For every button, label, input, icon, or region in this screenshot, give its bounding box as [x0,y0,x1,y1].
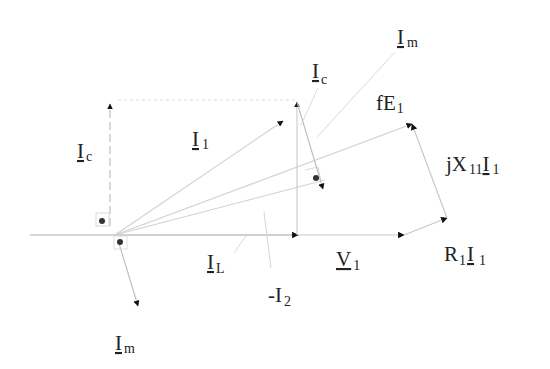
label-jx11i1: jX11I1 [445,152,499,177]
svg-text:Im: Im [115,331,135,356]
minus-i2-leader [264,212,271,268]
svg-text:I1: I1 [192,127,209,152]
svg-text:V1: V1 [336,247,360,273]
fe1-phasor [115,124,412,235]
label-v1: V1 [336,247,360,273]
angle-dot-icon [117,239,123,245]
r1i1-phasor [404,218,447,235]
il-leader [234,236,246,253]
label-ic-left: Ic [77,139,92,164]
svg-text:IL: IL [207,250,225,276]
ray-origin-lower [115,180,325,235]
label-im-bottom: Im [115,331,135,356]
svg-text:fE1: fE1 [376,91,404,116]
svg-text:-I2: -I2 [268,283,291,309]
ic-top-leader [301,88,318,125]
svg-text:Ic: Ic [77,139,92,164]
svg-text:Ic: Ic [312,59,327,87]
label-fe1: fE1 [376,91,404,116]
im-right-phasor [297,102,323,189]
label-il: IL [207,250,225,276]
svg-text:jX11I1: jX11I1 [445,152,499,177]
svg-text:Im: Im [397,25,418,50]
angle-dot-icon [99,218,105,224]
label-minus-i2: -I2 [268,283,291,309]
label-i1: I1 [192,127,209,152]
svg-text:R1I1: R1I1 [444,242,486,268]
angle-dot-icon [313,175,319,181]
label-ic-top: Ic [312,59,327,87]
label-im-top: Im [397,25,418,50]
i1-phasor [115,121,283,235]
im-bottom-phasor [118,240,138,306]
jx11i1-phasor [412,124,447,218]
label-r1i1: R1I1 [444,242,486,268]
phasor-diagram: Ic I1 Ic Im fE1 jX11I1 IL -I2 V1 R1I1 Im [0,0,550,369]
